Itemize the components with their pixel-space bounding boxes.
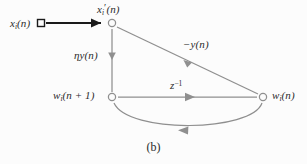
feedback-edge-arrowhead xyxy=(178,127,188,135)
delay-edge-arrowhead xyxy=(185,93,195,101)
w-next-node-circle[interactable] xyxy=(108,93,115,100)
eta-edge-arrowhead xyxy=(108,53,116,61)
input-edge xyxy=(46,19,101,28)
input-terminal-square[interactable] xyxy=(38,20,45,27)
neg-y-branch-label: −y(n) xyxy=(183,39,209,50)
delay-branch-label: z−1 xyxy=(170,80,182,91)
source-label: xi(n) xyxy=(10,18,30,31)
feedback-edge-arc xyxy=(114,103,262,126)
input-edge-arrowhead xyxy=(91,19,101,28)
figure-caption: (b) xyxy=(0,140,307,155)
w-node-label: wi(n) xyxy=(272,90,295,103)
w-next-node-label: wi(n + 1) xyxy=(53,90,94,103)
signal-flow-graph-figure: xi(n) xi′(n) ηy(n) −y(n) z−1 wi(n + 1) w… xyxy=(0,0,307,164)
x-prime-node-circle[interactable] xyxy=(108,19,115,26)
eta-branch-label: ηy(n) xyxy=(74,50,98,61)
eta-edge xyxy=(108,29,116,92)
w-node-circle[interactable] xyxy=(259,93,266,100)
delay-edge xyxy=(118,93,257,101)
feedback-edge xyxy=(114,103,262,135)
x-prime-node-label: xi′(n) xyxy=(97,3,120,17)
